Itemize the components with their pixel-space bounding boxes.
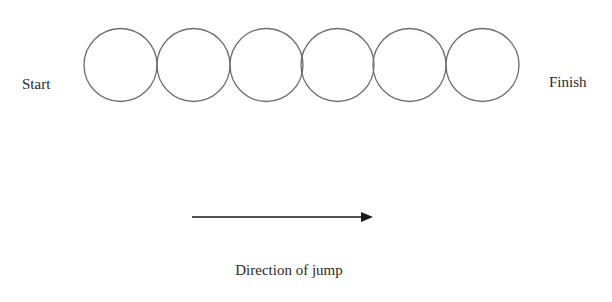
hoop-circle-1 xyxy=(84,29,157,102)
direction-caption: Direction of jump xyxy=(0,263,578,278)
hoop-jump-diagram xyxy=(0,0,612,302)
hoop-circle-5 xyxy=(373,29,446,102)
hoop-circle-6 xyxy=(446,29,519,102)
hoop-circle-3 xyxy=(230,29,303,102)
hoop-circle-2 xyxy=(157,29,230,102)
finish-label: Finish xyxy=(549,75,587,90)
hoop-row xyxy=(84,29,519,102)
direction-arrow-icon xyxy=(192,212,373,222)
hoop-circle-4 xyxy=(301,29,374,102)
